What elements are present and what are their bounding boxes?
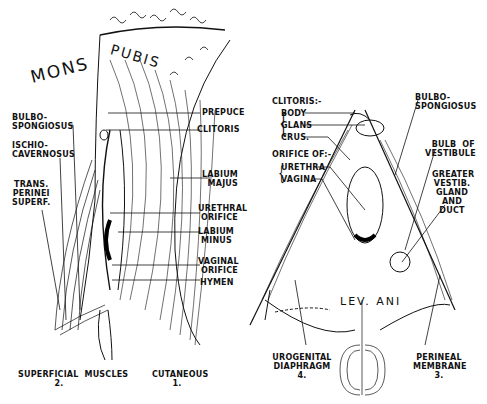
label-orifice-urethra: URETHRA bbox=[281, 163, 325, 172]
label-orifice-vagina: VAGINA bbox=[281, 175, 316, 184]
label-trans-perinei: TRANS. PERINEI SUPERF. bbox=[12, 180, 50, 207]
label-clitoris: CLITORIS bbox=[197, 125, 240, 134]
label-orifice-header: ORIFICE OF:- bbox=[272, 150, 331, 159]
caption-superficial-muscles: SUPERFICIAL MUSCLES 2. bbox=[18, 370, 100, 388]
label-levator-ani: LEV. ANI bbox=[340, 297, 401, 306]
label-vaginal-orifice: VAGINAL ORIFICE bbox=[198, 257, 238, 275]
label-labium-majus: LABIUM MAJUS bbox=[200, 170, 238, 188]
clitoris-brace: { bbox=[279, 106, 287, 140]
label-bulb-of-vestibule: BULB OF VESTIBULE bbox=[425, 140, 475, 158]
caption-urogenital-diaphragm: UROGENITAL DIAPHRAGM 4. bbox=[272, 353, 332, 380]
label-clitoris-header: CLITORIS:- bbox=[272, 97, 322, 106]
caption-cutaneous: CUTANEOUS 1. bbox=[152, 370, 202, 388]
label-bulbospongiosus-left: BULBO- SPONGIOSUS bbox=[12, 113, 73, 131]
anatomical-figure: MONS PUBIS BULBO- SPONGIOSUS ISCHIO- CAV… bbox=[0, 0, 487, 404]
label-ischiocavernosus: ISCHIO- CAVERNOSUS bbox=[12, 141, 75, 159]
label-prepuce: PREPUCE bbox=[202, 108, 245, 117]
label-hymen: HYMEN bbox=[200, 278, 234, 287]
caption-perineal-membrane: PERINEAL MEMBRANE 3. bbox=[413, 353, 465, 380]
label-greater-vestibular-gland: GREATER VESTIB. GLAND AND DUCT bbox=[432, 170, 472, 215]
orifice-brace: { bbox=[278, 160, 284, 186]
label-urethral-orifice: URETHRAL ORIFICE bbox=[198, 204, 238, 222]
label-bulbospongiosus-right: BULBO- SPONGIOSUS bbox=[415, 93, 476, 111]
label-labium-minus: LABIUM MINUS bbox=[198, 227, 232, 245]
